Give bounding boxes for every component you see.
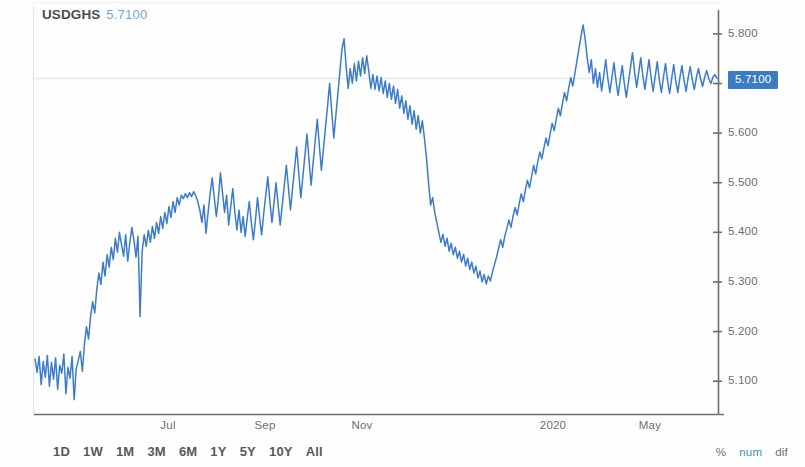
mode-button-percent[interactable]: % xyxy=(716,446,726,458)
y-axis-tick-label: 5.800 xyxy=(728,27,758,39)
y-axis-tick-label: 5.500 xyxy=(728,176,758,188)
range-button-all[interactable]: All xyxy=(306,444,323,459)
x-axis-tick-label: Nov xyxy=(351,419,372,431)
forex-chart-widget: USDGHS 5.7100 5.8005.6005.5005.4005.3005… xyxy=(0,0,805,467)
x-axis-tick-label: May xyxy=(639,419,661,431)
x-axis-tick-label: Jul xyxy=(160,419,175,431)
chart-card: USDGHS 5.7100 5.8005.6005.5005.4005.3005… xyxy=(0,0,805,440)
y-axis-tick-label: 5.200 xyxy=(728,325,758,337)
mode-button-num[interactable]: num xyxy=(739,446,762,458)
price-plot[interactable] xyxy=(0,0,805,440)
x-axis-tick-label: Sep xyxy=(254,419,275,431)
price-line xyxy=(35,25,717,400)
range-button-1w[interactable]: 1W xyxy=(83,444,103,459)
time-range-buttons: 1D1W1M3M6M1Y5Y10YAll xyxy=(53,444,323,459)
x-axis-tick-label: 2020 xyxy=(540,419,566,431)
range-button-10y[interactable]: 10Y xyxy=(269,444,293,459)
chart-toolbar: 1D1W1M3M6M1Y5Y10YAll %numdif xyxy=(0,440,805,467)
y-axis-tick-label: 5.100 xyxy=(728,374,758,386)
y-axis-tick-label: 5.300 xyxy=(728,275,758,287)
range-button-1d[interactable]: 1D xyxy=(53,444,70,459)
range-button-3m[interactable]: 3M xyxy=(147,444,165,459)
current-price-badge: 5.7100 xyxy=(728,71,778,89)
y-axis-tick-marks xyxy=(713,34,722,381)
range-button-5y[interactable]: 5Y xyxy=(240,444,256,459)
y-axis-tick-label: 5.400 xyxy=(728,225,758,237)
range-button-1m[interactable]: 1M xyxy=(116,444,134,459)
y-axis-tick-label: 5.600 xyxy=(728,126,758,138)
range-button-1y[interactable]: 1Y xyxy=(210,444,226,459)
display-mode-buttons: %numdif xyxy=(716,446,788,458)
mode-button-dif[interactable]: dif xyxy=(775,446,788,458)
range-button-6m[interactable]: 6M xyxy=(179,444,197,459)
